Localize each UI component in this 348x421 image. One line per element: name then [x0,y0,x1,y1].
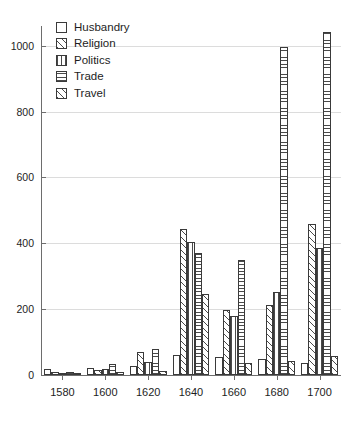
bar-husbandry-1680 [258,359,265,375]
x-axis-tick [277,375,278,380]
bar-chart: 02004006008001000 1580160016201640166016… [0,0,348,421]
legend-item-travel[interactable]: Travel [56,85,130,102]
x-axis-tick [105,375,106,380]
x-axis-tick [62,375,63,380]
y-axis-tick-label: 1000 [0,41,34,51]
chart-legend: HusbandryReligionPoliticsTradeTravel [56,19,130,102]
bar-husbandry-1660 [215,357,222,375]
bar-politics-1680 [273,292,280,375]
bar-religion-1660 [223,310,230,375]
legend-item-politics[interactable]: Politics [56,52,130,69]
bar-husbandry-1700 [301,363,308,376]
bar-politics-1640 [187,242,194,375]
bar-travel-1700 [331,356,338,375]
y-axis-tick-label: 800 [0,107,34,117]
bar-trade-1580 [66,372,73,375]
legend-label: Politics [74,55,110,66]
bar-travel-1620 [159,371,166,375]
bar-trade-1640 [195,253,202,375]
legend-swatch-husbandry-icon [56,22,67,33]
bar-travel-1660 [245,363,252,375]
legend-swatch-politics-icon [56,55,67,66]
legend-label: Travel [74,88,106,99]
bar-husbandry-1640 [173,355,180,375]
bar-travel-1600 [116,372,123,375]
bar-trade-1600 [109,364,116,375]
legend-label: Religion [74,38,116,49]
bar-religion-1680 [266,305,273,375]
legend-item-trade[interactable]: Trade [56,69,130,86]
legend-label: Trade [74,71,104,82]
bar-trade-1660 [238,260,245,375]
legend-swatch-trade-icon [56,71,67,82]
y-axis-tick-label: 400 [0,238,34,248]
bar-travel-1640 [202,294,209,375]
bar-politics-1660 [230,316,237,375]
bar-travel-1580 [74,373,81,375]
bar-husbandry-1580 [44,369,51,375]
x-axis-tick [191,375,192,380]
bar-religion-1620 [137,352,144,375]
y-axis-tick-label: 0 [0,370,34,380]
legend-swatch-travel-icon [56,88,67,99]
bar-religion-1600 [94,370,101,375]
x-axis-tick [148,375,149,380]
legend-swatch-religion-icon [56,38,67,49]
bar-religion-1580 [51,372,58,375]
y-axis-tick-label: 200 [0,304,34,314]
bar-trade-1680 [280,47,287,375]
bar-religion-1640 [180,229,187,375]
bar-husbandry-1600 [87,368,94,375]
y-axis-tick-label: 600 [0,172,34,182]
x-axis-tick [320,375,321,380]
bar-trade-1700 [323,32,330,375]
x-axis-tick [234,375,235,380]
bar-husbandry-1620 [130,366,137,375]
bar-religion-1700 [308,224,315,375]
x-axis-tick-label: 1700 [290,386,348,398]
bar-politics-1700 [316,248,323,375]
bar-travel-1680 [288,361,295,375]
legend-item-religion[interactable]: Religion [56,36,130,53]
bar-trade-1620 [152,349,159,375]
legend-item-husbandry[interactable]: Husbandry [56,19,130,36]
legend-label: Husbandry [74,22,130,33]
bar-politics-1620 [144,362,151,375]
